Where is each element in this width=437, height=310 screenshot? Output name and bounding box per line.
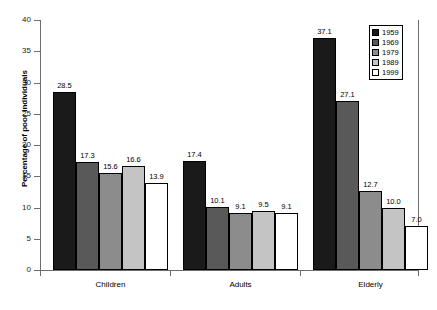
bar-adults-1989 [252, 211, 275, 270]
bar-value-label: 37.1 [309, 28, 340, 36]
legend-label: 1989 [382, 59, 399, 67]
legend-swatch-icon [372, 39, 379, 46]
bar-value-label: 12.7 [355, 181, 386, 189]
legend-label: 1999 [382, 69, 399, 77]
bar-chart: Percentage of poor individuals 051015202… [0, 0, 437, 310]
bar-value-label: 28.5 [49, 82, 80, 90]
y-tick-label: 35 [3, 47, 31, 55]
bar-value-label: 7.0 [401, 216, 432, 224]
y-tick-label: 0 [3, 266, 31, 274]
y-tick-label: 25 [3, 110, 31, 118]
legend-item-1999: 1999 [372, 68, 399, 77]
bar-children-1989 [122, 166, 145, 270]
y-tick-label: 15 [3, 172, 31, 180]
legend-label: 1979 [382, 49, 399, 57]
x-tick [300, 271, 301, 276]
bar-value-label: 16.6 [118, 156, 149, 164]
category-label-children: Children [71, 280, 151, 289]
y-tick-label: 20 [3, 141, 31, 149]
y-tick [34, 208, 40, 209]
category-label-adults: Adults [201, 280, 281, 289]
legend-swatch-icon [372, 29, 379, 36]
y-tick-label: 30 [3, 79, 31, 87]
x-axis-line [40, 270, 419, 271]
y-axis-line [40, 20, 41, 271]
category-label-elderly: Elderly [331, 280, 411, 289]
legend-item-1979: 1979 [372, 48, 399, 57]
bar-elderly-1999 [405, 226, 428, 270]
y-tick [34, 51, 40, 52]
bar-children-1969 [76, 162, 99, 270]
y-tick [34, 83, 40, 84]
legend-label: 1969 [382, 39, 399, 47]
y-tick-label: 5 [3, 235, 31, 243]
legend-item-1969: 1969 [372, 38, 399, 47]
legend-swatch-icon [372, 69, 379, 76]
legend-label: 1959 [382, 29, 399, 37]
y-axis-title: Percentage of poor individuals [20, 49, 29, 209]
bar-adults-1999 [275, 213, 298, 270]
bar-elderly-1959 [313, 38, 336, 270]
y-tick [34, 114, 40, 115]
legend: 19591969197919891999 [369, 25, 403, 80]
y-tick [34, 20, 40, 21]
bar-value-label: 17.4 [179, 151, 210, 159]
legend-item-1989: 1989 [372, 58, 399, 67]
bar-value-label: 9.1 [271, 203, 302, 211]
legend-item-1959: 1959 [372, 28, 399, 37]
legend-swatch-icon [372, 49, 379, 56]
bar-adults-1979 [229, 213, 252, 270]
legend-swatch-icon [372, 59, 379, 66]
bar-value-label: 17.3 [72, 152, 103, 160]
bar-value-label: 27.1 [332, 91, 363, 99]
y-tick [34, 239, 40, 240]
y-tick [34, 176, 40, 177]
bar-value-label: 10.0 [378, 198, 409, 206]
bar-adults-1969 [206, 207, 229, 270]
bar-adults-1959 [183, 161, 206, 270]
x-tick [40, 271, 41, 276]
x-tick [170, 271, 171, 276]
y-tick-label: 10 [3, 204, 31, 212]
x-tick [418, 271, 419, 276]
y-tick-label: 40 [3, 16, 31, 24]
y-tick [34, 145, 40, 146]
bar-children-1979 [99, 173, 122, 271]
bar-children-1959 [53, 92, 76, 270]
bar-children-1999 [145, 183, 168, 270]
bar-value-label: 13.9 [141, 173, 172, 181]
